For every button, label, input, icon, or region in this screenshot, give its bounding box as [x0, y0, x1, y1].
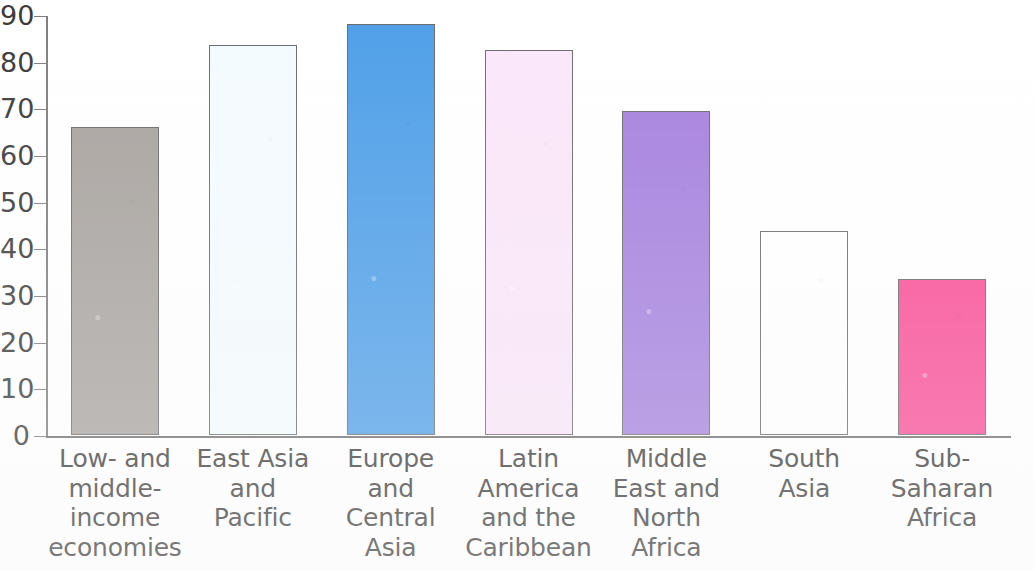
- y-tick-40: [34, 249, 46, 250]
- y-tick-label: 90: [0, 2, 30, 29]
- category-label: Sub- Saharan Africa: [873, 444, 1011, 533]
- y-tick-90: [34, 16, 46, 17]
- bar-chart: 9080706050403020100 Low- and middle- inc…: [0, 0, 1034, 570]
- category-label: East Asia and Pacific: [184, 444, 322, 533]
- category-label: Europe and Central Asia: [322, 444, 460, 562]
- category-label: Middle East and North Africa: [597, 444, 735, 562]
- plot-area: [46, 16, 1011, 435]
- y-tick-0: [34, 436, 46, 437]
- y-tick-label: 50: [0, 189, 30, 216]
- bar: [71, 127, 159, 435]
- y-tick-50: [34, 203, 46, 204]
- y-tick-label: 70: [0, 95, 30, 122]
- category-label: South Asia: [735, 444, 873, 503]
- y-tick-70: [34, 109, 46, 110]
- y-tick-20: [34, 343, 46, 344]
- y-tick-80: [34, 63, 46, 64]
- x-axis-labels: Low- and middle- income economiesEast As…: [46, 444, 1011, 570]
- y-tick-label: 10: [0, 375, 30, 402]
- y-tick-label: 20: [0, 329, 30, 356]
- bar: [209, 45, 297, 435]
- y-tick-label: 40: [0, 235, 30, 262]
- y-tick-60: [34, 156, 46, 157]
- y-tick-label: 80: [0, 49, 30, 76]
- y-tick-label: 60: [0, 142, 30, 169]
- x-axis-line: [46, 436, 1011, 438]
- y-tick-30: [34, 296, 46, 297]
- bar: [898, 279, 986, 435]
- y-tick-label: 30: [0, 282, 30, 309]
- y-tick-label: 0: [0, 422, 30, 449]
- bar: [760, 231, 848, 435]
- category-label: Low- and middle- income economies: [46, 444, 184, 562]
- bar: [347, 24, 435, 435]
- bar: [485, 50, 573, 435]
- y-tick-10: [34, 389, 46, 390]
- bar: [622, 111, 710, 435]
- category-label: Latin America and the Caribbean: [460, 444, 598, 562]
